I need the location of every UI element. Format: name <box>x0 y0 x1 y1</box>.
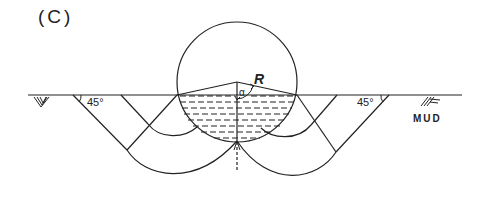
radius-line-left <box>177 82 237 95</box>
angle-label-right: 45° <box>357 96 374 108</box>
right-45-angle-arc <box>381 95 383 102</box>
radius-line-right <box>237 82 297 95</box>
panel-label: (C) <box>38 6 73 28</box>
left-45-angle-arc <box>79 95 81 102</box>
diagram-canvas <box>0 0 486 198</box>
right-outer-log-spiral <box>237 141 336 175</box>
mud-hatch-icon <box>421 97 440 106</box>
left-cross-line <box>127 95 177 150</box>
angle-label-left: 45° <box>87 96 104 108</box>
left-inner-log-spiral <box>148 124 197 136</box>
right-inner-log-spiral <box>261 125 311 137</box>
radius-label: R <box>254 71 264 87</box>
alpha-label: α <box>239 87 245 98</box>
left-outer-log-spiral <box>127 141 237 174</box>
mud-label: MUD <box>413 113 442 124</box>
ground-hatch-icon <box>34 97 49 107</box>
left-inner-45-line <box>121 95 148 124</box>
